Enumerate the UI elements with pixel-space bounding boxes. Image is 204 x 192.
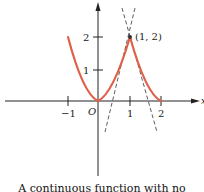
point-marker (128, 35, 132, 39)
x-axis-arrow-icon (191, 99, 200, 104)
point-label: (1, 2) (135, 31, 162, 42)
function-graph: x −1 O 1 2 1 2 (1, 2) (0, 0, 204, 192)
x-tick-label-1: 1 (127, 108, 133, 119)
y-axis-arrow-icon (96, 2, 101, 11)
x-tick-label--1: −1 (61, 108, 76, 119)
y-tick-label-2: 2 (83, 32, 89, 43)
x-axis-label: x (201, 96, 204, 106)
y-tick-label-1: 1 (83, 65, 89, 76)
figure-caption: A continuous function with no (0, 182, 204, 192)
x-tick-label-2: 2 (158, 108, 164, 119)
origin-label: O (88, 106, 96, 117)
